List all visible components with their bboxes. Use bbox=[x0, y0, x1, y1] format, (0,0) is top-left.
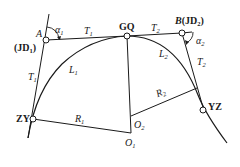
label-o2: O2 bbox=[134, 119, 145, 131]
label-b-jd2: B(JD2) bbox=[174, 15, 204, 27]
point-b-marker bbox=[179, 30, 185, 36]
label-jd1: (JD1) bbox=[14, 42, 36, 54]
label-o1: O1 bbox=[125, 137, 135, 149]
point-zy-marker bbox=[30, 116, 36, 122]
label-t1-top: T1 bbox=[84, 25, 93, 37]
label-a: A bbox=[35, 28, 43, 39]
tangent-line-t2 bbox=[127, 33, 182, 36]
compound-curve-diagram: A (JD1) α1 T1 T1 L1 GQ T2 B(JD2) α2 T2 L… bbox=[0, 0, 240, 167]
radius-gq-o1 bbox=[127, 36, 131, 133]
label-l1: L1 bbox=[68, 64, 78, 76]
label-alpha2: α2 bbox=[196, 35, 205, 47]
point-yz-marker bbox=[200, 107, 206, 113]
label-r1: R1 bbox=[74, 113, 84, 125]
label-t2-right: T2 bbox=[197, 56, 207, 68]
label-zy: ZY bbox=[16, 113, 31, 124]
point-gq-marker bbox=[124, 33, 130, 39]
point-a-marker bbox=[43, 37, 49, 43]
label-t1-left: T1 bbox=[28, 71, 37, 83]
label-r2: R2 bbox=[153, 85, 168, 100]
label-yz: YZ bbox=[208, 101, 222, 112]
label-t2-top: T2 bbox=[151, 22, 161, 34]
label-alpha1: α1 bbox=[55, 24, 64, 36]
label-gq: GQ bbox=[119, 21, 135, 32]
